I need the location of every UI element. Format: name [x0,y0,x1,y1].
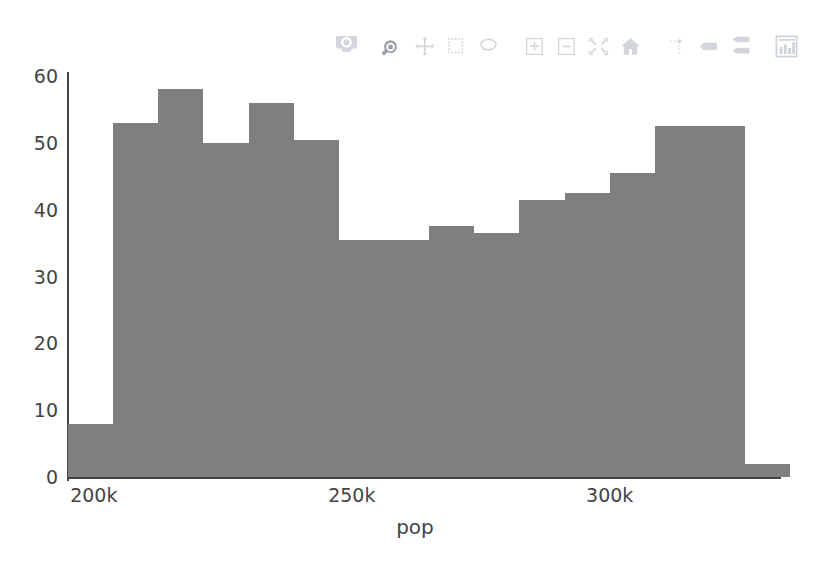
plot-container: 0102030405060 200k250k300k pop [0,0,830,568]
x-axis-title: pop [0,515,830,539]
modebar-group-download [330,30,362,62]
box-select-icon[interactable] [440,30,472,62]
pan-icon[interactable] [408,30,440,62]
zoom-icon[interactable] [376,30,408,62]
zoom-out-icon[interactable] [550,30,582,62]
modebar-group-dragmode [376,30,504,62]
hover-closest-icon[interactable] [692,30,724,62]
modebar [330,30,802,62]
plotly-logo-icon[interactable] [770,30,802,62]
reset-axes-icon[interactable] [614,30,646,62]
x-axis-tick-label: 250k [328,486,375,505]
modebar-group-hover [660,30,756,62]
toggle-spike-lines-icon[interactable] [660,30,692,62]
lasso-select-icon[interactable] [472,30,504,62]
hover-compare-icon[interactable] [724,30,756,62]
download-plot-icon[interactable] [330,30,362,62]
x-axis-tick-label: 200k [70,486,117,505]
modebar-group-zoomscale [518,30,646,62]
autoscale-icon[interactable] [582,30,614,62]
x-axis-tick-labels: 200k250k300k [0,0,830,568]
x-axis-tick-label: 300k [586,486,633,505]
zoom-in-icon[interactable] [518,30,550,62]
modebar-group-logo [770,30,802,62]
